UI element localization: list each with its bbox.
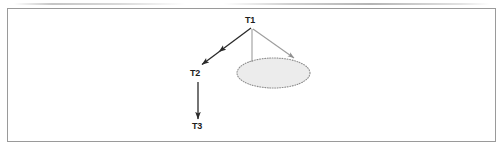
node-label-t1: T1 bbox=[245, 16, 255, 25]
node-label-t3: T3 bbox=[192, 122, 202, 131]
node-label-t2: T2 bbox=[190, 69, 200, 78]
edge-t1-to-t2 bbox=[202, 28, 251, 65]
figure-container: T1 T2 T3 bbox=[0, 0, 504, 151]
edge-t1-to-ellipse-diagonal bbox=[253, 29, 294, 58]
stippled-ellipse bbox=[237, 58, 310, 88]
